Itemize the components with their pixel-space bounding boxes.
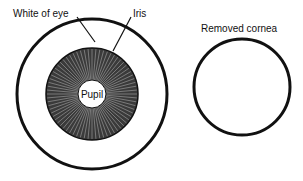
removed-cornea-circle [194, 39, 290, 135]
white-of-eye-label: White of eye [13, 8, 69, 19]
removed-cornea-label: Removed cornea [201, 23, 278, 34]
eye-diagram: White of eye Iris Pupil Removed cornea [0, 0, 303, 181]
pupil-label: Pupil [81, 89, 103, 100]
iris-label: Iris [133, 8, 146, 19]
